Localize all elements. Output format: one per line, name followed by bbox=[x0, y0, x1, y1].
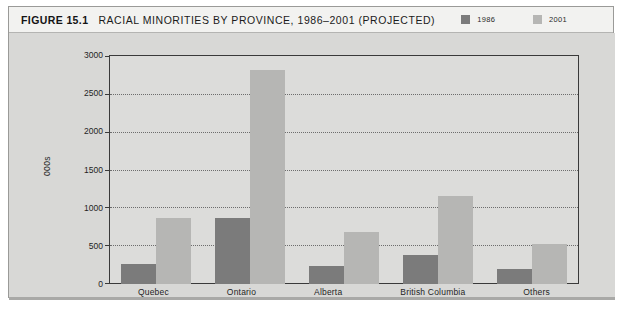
y-tick-label: 0 bbox=[98, 279, 103, 289]
bar-1986-others bbox=[497, 269, 532, 284]
figure-root: FIGURE 15.1 RACIAL MINORITIES BY PROVINC… bbox=[0, 0, 622, 316]
figure-title: RACIAL MINORITIES BY PROVINCE, 1986–2001… bbox=[98, 14, 435, 26]
legend-label-1986: 1986 bbox=[477, 15, 495, 24]
y-tick-label: 1000 bbox=[84, 203, 103, 213]
plot-region: 000s 300025002000150010005000 QuebecOnta… bbox=[9, 33, 615, 298]
y-tick-label: 2500 bbox=[84, 88, 103, 98]
x-axis-category-labels: QuebecOntarioAlbertaBritish ColumbiaOthe… bbox=[109, 287, 579, 297]
bar-group bbox=[403, 55, 473, 284]
figure-card: FIGURE 15.1 RACIAL MINORITIES BY PROVINC… bbox=[8, 6, 614, 298]
bar-group bbox=[309, 55, 379, 284]
bar-group bbox=[497, 55, 567, 284]
bar-2001-alberta bbox=[344, 232, 379, 284]
y-tick-label: 500 bbox=[89, 241, 103, 251]
y-axis-tick-labels: 300025002000150010005000 bbox=[61, 55, 103, 284]
chart-legend: 1986 2001 bbox=[461, 15, 613, 24]
bar-2001-british-columbia bbox=[438, 196, 473, 284]
x-tick-label: Others bbox=[523, 287, 550, 297]
legend-swatch-1986 bbox=[461, 15, 470, 24]
bar-1986-ontario bbox=[215, 218, 250, 284]
legend-item-1986: 1986 bbox=[461, 15, 495, 24]
x-tick-label: Ontario bbox=[227, 287, 256, 297]
bars-layer bbox=[109, 55, 579, 284]
x-tick-label: British Columbia bbox=[400, 287, 465, 297]
bar-group bbox=[121, 55, 191, 284]
bar-1986-quebec bbox=[121, 264, 156, 284]
legend-label-2001: 2001 bbox=[549, 15, 567, 24]
bar-2001-quebec bbox=[156, 218, 191, 284]
bar-1986-alberta bbox=[309, 266, 344, 284]
bar-group bbox=[215, 55, 285, 284]
bar-2001-others bbox=[532, 244, 567, 284]
y-tick-label: 2000 bbox=[84, 126, 103, 136]
legend-item-2001: 2001 bbox=[533, 15, 567, 24]
y-tick-label: 1500 bbox=[84, 165, 103, 175]
bar-1986-british-columbia bbox=[403, 255, 438, 284]
figure-title-bar: FIGURE 15.1 RACIAL MINORITIES BY PROVINC… bbox=[9, 7, 613, 33]
x-tick-label: Quebec bbox=[138, 287, 169, 297]
figure-number: FIGURE 15.1 bbox=[21, 14, 88, 26]
bar-2001-ontario bbox=[250, 70, 285, 284]
x-tick-label: Alberta bbox=[314, 287, 342, 297]
y-axis-title: 000s bbox=[42, 155, 52, 175]
legend-swatch-2001 bbox=[533, 15, 542, 24]
y-tick-label: 3000 bbox=[84, 50, 103, 60]
